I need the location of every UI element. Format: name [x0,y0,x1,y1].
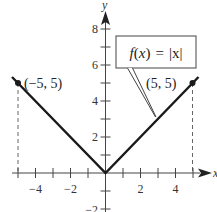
x-tick-label-m4: −4 [29,182,42,196]
x-axis-arrow-icon [198,169,212,178]
point-marker-right [190,80,196,86]
point-marker-left [15,80,21,86]
y-axis: y 8 6 4 2 −2 [85,0,110,212]
x-tick-label-m2: −2 [64,182,77,196]
absolute-value-graph: x −4 −2 2 4 y [0,0,217,212]
x-tick-label-2: 2 [138,182,144,196]
y-tick-label-2: 2 [92,130,98,144]
point-label-left: (−5, 5) [24,76,63,92]
function-label: f(x)=|x| [130,45,183,62]
y-tick-label-8: 8 [92,22,98,36]
y-tick-label-6: 6 [92,58,98,72]
y-axis-label: y [101,0,108,12]
x-tick-label-4: 4 [173,182,179,196]
y-tick-label-4: 4 [92,94,98,108]
y-tick-label-m2: −2 [85,203,98,212]
x-axis: x −4 −2 2 4 [12,166,217,196]
x-axis-label: x [212,166,217,180]
point-label-right: (5, 5) [146,76,177,92]
